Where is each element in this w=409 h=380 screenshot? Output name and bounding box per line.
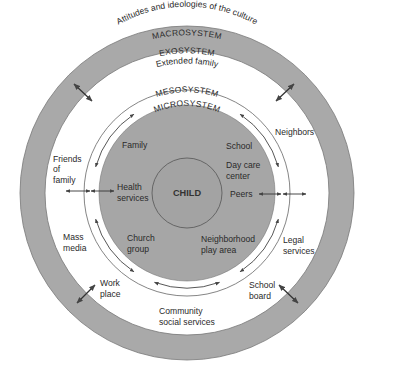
mass-media-line-1: Mass <box>63 232 84 242</box>
micro-school: School <box>226 141 252 151</box>
school-board-line-2: board <box>249 291 271 301</box>
macrosystem-subtitle: Attitudes and ideologies of the culture <box>115 0 260 27</box>
exo-work-place: Work place <box>100 278 121 299</box>
community-line-2: social services <box>159 317 215 327</box>
community-line-1: Community <box>159 306 203 316</box>
legal-line-1: Legal <box>283 235 304 245</box>
neighborhood-line-2: play area <box>201 245 237 255</box>
work-line-1: Work <box>100 278 121 288</box>
exo-mass-media: Mass media <box>63 232 87 253</box>
exo-neighbors: Neighbors <box>275 127 314 137</box>
legal-line-2: services <box>283 246 315 256</box>
health-line-1: Health <box>117 182 142 192</box>
friends-line-3: family <box>53 175 76 185</box>
day-care-line-2: center <box>226 171 250 181</box>
mass-media-line-2: media <box>63 243 87 253</box>
friends-line-2: of <box>53 164 61 174</box>
day-care-line-1: Day care <box>226 160 261 170</box>
church-line-2: group <box>127 244 149 254</box>
work-line-2: place <box>100 289 121 299</box>
neighborhood-line-1: Neighborhood <box>201 234 255 244</box>
church-line-1: Church <box>127 233 155 243</box>
micro-peers: Peers <box>230 189 252 199</box>
child-node: CHILD <box>152 158 222 228</box>
friends-line-1: Friends <box>53 154 82 164</box>
ecological-systems-diagram: MACROSYSTEM Attitudes and ideologies of … <box>0 0 409 380</box>
school-board-line-1: School <box>249 280 275 290</box>
health-line-2: services <box>117 193 149 203</box>
micro-family: Family <box>122 140 148 150</box>
child-label: CHILD <box>173 188 201 198</box>
